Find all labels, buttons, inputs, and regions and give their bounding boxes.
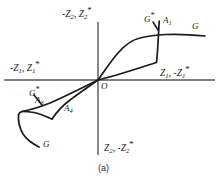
curve-ll-tail xyxy=(18,115,39,148)
curve-ll-wedge-return xyxy=(22,112,52,120)
curve-lower-branch xyxy=(98,63,156,81)
axis-label-vertical-top: -Z2, Z2* xyxy=(62,6,92,21)
gstar-tick-group xyxy=(34,22,158,105)
origin-label: O xyxy=(101,82,108,91)
point-label-g-upper-right: G xyxy=(192,22,199,31)
axis-label-horizontal-right: Z1, -Z1* xyxy=(160,65,190,80)
point-label-a3: A3 xyxy=(35,96,44,106)
point-label-g-lower-left: G xyxy=(43,140,50,149)
axis-label-horizontal-left: -Z1, Z1* xyxy=(10,60,40,75)
point-label-a4: A4 xyxy=(64,104,73,114)
point-label-a1: A1 xyxy=(163,16,172,26)
figure-caption: (a) xyxy=(98,164,109,173)
point-label-g-star-upper-right: G* xyxy=(144,11,155,24)
figure-container: -Z2, Z2* Z2, -Z2* -Z1, Z1* Z1, -Z1* G* A… xyxy=(0,0,219,181)
axis-label-vertical-bottom: Z2, -Z2* xyxy=(104,140,134,155)
